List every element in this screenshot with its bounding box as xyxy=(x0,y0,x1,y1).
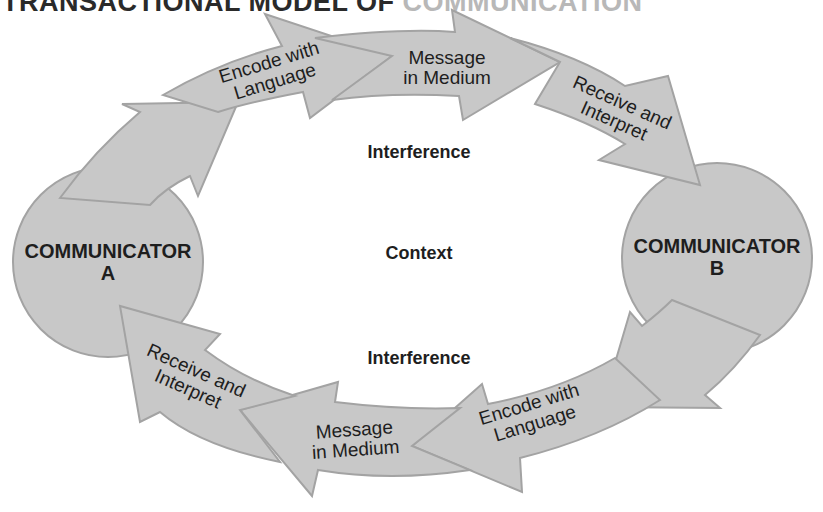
context-label: Context xyxy=(386,243,453,263)
communicator-a-label-line2: A xyxy=(101,262,115,284)
communicator-b-label-line2: B xyxy=(710,257,724,279)
svg-text:Message: Message xyxy=(408,47,485,68)
transactional-model-diagram: COMMUNICATOR A COMMUNICATOR B Encode wit… xyxy=(0,0,823,512)
top-message-label: Message in Medium xyxy=(403,47,491,88)
communicator-a-label-line1: COMMUNICATOR xyxy=(24,240,192,262)
interference-bottom-label: Interference xyxy=(367,348,470,368)
bottom-message-label: Message in Medium xyxy=(310,416,400,463)
arrow-a-to-encode xyxy=(60,102,238,205)
interference-top-label: Interference xyxy=(367,142,470,162)
svg-text:in Medium: in Medium xyxy=(403,67,491,88)
communicator-b-label-line1: COMMUNICATOR xyxy=(633,235,801,257)
